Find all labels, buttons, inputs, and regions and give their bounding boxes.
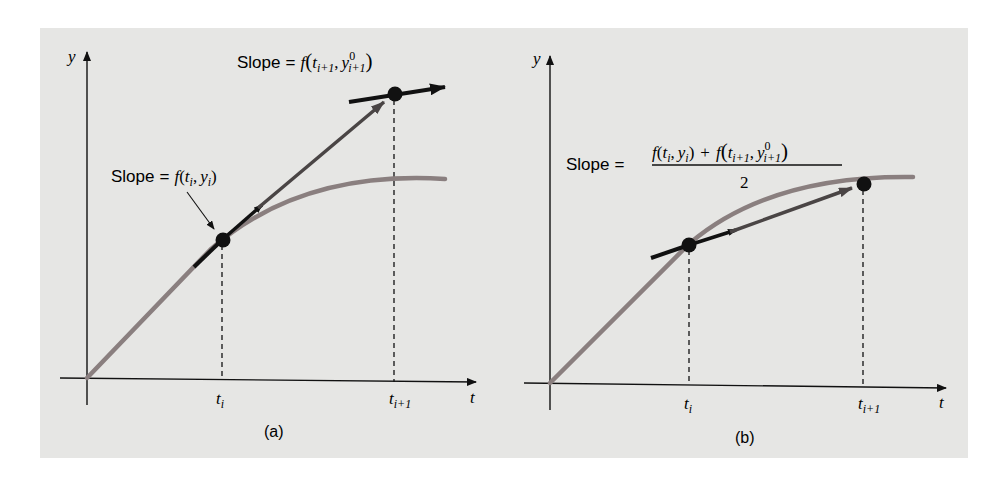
x-axis (60, 378, 476, 382)
x-axis-label: t (939, 393, 945, 412)
x-axis-label: t (470, 388, 476, 407)
panel-a: y t ti ti+1 Slope=f(ti,yi) Slope=f(ti+1,… (60, 47, 476, 440)
solution-curve (87, 178, 445, 378)
point-ti1-predictor (388, 87, 403, 102)
panel-b: y t ti ti+1 Slope= f(ti,yi)+f(ti+1,y0i+1… (524, 49, 946, 446)
annotation-slope-ti1: Slope=f(ti+1,y0i+1) (237, 49, 373, 75)
tick-label-ti1: ti+1 (858, 394, 880, 416)
fraction-denominator: 2 (740, 173, 749, 192)
point-ti1-corrected (857, 177, 872, 192)
fraction-numerator: f(ti,yi)+f(ti+1,y0i+1) (652, 139, 788, 165)
y-axis-label: y (531, 49, 541, 68)
corrector-arrow (730, 188, 852, 232)
point-ti (682, 238, 697, 253)
heun-method-figure: y t ti ti+1 Slope=f(ti,yi) Slope=f(ti+1,… (0, 0, 998, 490)
tick-label-ti: ti (684, 394, 692, 416)
solution-curve (550, 177, 913, 383)
annotation-pointer (187, 192, 214, 229)
annotation-slope-average: Slope= f(ti,yi)+f(ti+1,y0i+1) 2 (566, 139, 842, 192)
y-axis-label: y (66, 47, 76, 66)
x-axis (524, 383, 946, 388)
tick-label-ti1: ti+1 (389, 389, 411, 411)
caption-b: (b) (735, 429, 755, 446)
caption-a: (a) (264, 423, 284, 440)
tick-label-ti: ti (216, 389, 224, 411)
svg-text:Slope=: Slope= (566, 155, 624, 174)
annotation-slope-ti: Slope=f(ti,yi) (111, 167, 217, 189)
point-ti (216, 233, 231, 248)
